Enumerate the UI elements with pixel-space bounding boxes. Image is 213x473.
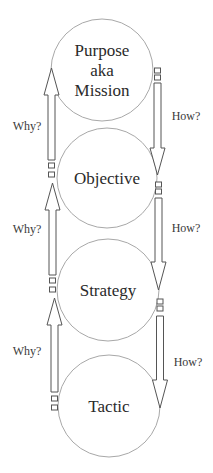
node-label: Tactic <box>88 397 130 416</box>
connector-marker <box>52 396 58 401</box>
connector-marker <box>50 287 56 292</box>
why-label: Why? <box>13 344 42 358</box>
node-objective: Objective <box>57 128 157 228</box>
connector-marker <box>157 306 163 311</box>
connector-marker <box>157 299 163 304</box>
why-label: Why? <box>13 119 42 133</box>
connector-marker <box>156 182 162 187</box>
how-label: How? <box>174 355 203 369</box>
node-strategy: Strategy <box>57 239 159 341</box>
nodes: PurposeakaMissionObjectiveStrategyTactic <box>51 19 160 457</box>
node-purpose: PurposeakaMission <box>51 19 153 121</box>
node-label: Mission <box>75 81 130 100</box>
connector-marker <box>156 189 162 194</box>
connector-marker <box>52 405 58 410</box>
how-label: How? <box>172 221 201 235</box>
connector-marker <box>49 172 55 177</box>
node-label: aka <box>90 61 114 80</box>
connector-marker <box>155 75 161 80</box>
connector-marker <box>155 68 161 73</box>
arrow-up-icon <box>47 298 62 392</box>
connector-marker <box>50 278 56 283</box>
arrow-up-icon <box>45 183 60 275</box>
node-tactic: Tactic <box>58 355 160 457</box>
connector-marker <box>49 163 55 168</box>
how-label: How? <box>172 109 201 123</box>
purpose-hierarchy-diagram: PurposeakaMissionObjectiveStrategyTactic… <box>0 0 213 473</box>
node-label: Strategy <box>80 281 137 300</box>
why-label: Why? <box>13 222 42 236</box>
node-label: Objective <box>74 169 140 188</box>
why-arrow-strategy-to-objective <box>45 183 60 292</box>
node-label: Purpose <box>75 41 130 60</box>
